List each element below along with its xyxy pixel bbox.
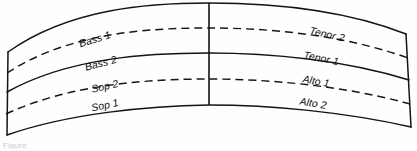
section-label-bass-2: Bass 2 bbox=[84, 54, 118, 73]
edge-right bbox=[406, 34, 411, 127]
section-label-tenor-2: Tenor 2 bbox=[309, 25, 346, 44]
figure-container: Bass 1 Bass 2 Sop 2 Sop 1 Tenor 2 Tenor … bbox=[0, 0, 417, 151]
arc-solid-inner-bottom bbox=[7, 105, 411, 135]
arc-solid-mid bbox=[7, 53, 409, 92]
section-label-tenor-1: Tenor 1 bbox=[303, 49, 340, 67]
section-label-alto-2: Alto 2 bbox=[298, 96, 328, 111]
section-label-alto-1: Alto 1 bbox=[301, 73, 331, 89]
choir-seating-diagram: Bass 1 Bass 2 Sop 2 Sop 1 Tenor 2 Tenor … bbox=[0, 0, 417, 151]
section-label-sop-2: Sop 2 bbox=[90, 78, 120, 95]
section-label-bass-1: Bass 1 bbox=[78, 29, 112, 49]
arc-dashed-row1 bbox=[7, 28, 408, 73]
arc-dashed-row3 bbox=[6, 79, 410, 114]
figure-caption-fragment: Figure bbox=[3, 141, 123, 149]
edge-left bbox=[7, 52, 8, 135]
